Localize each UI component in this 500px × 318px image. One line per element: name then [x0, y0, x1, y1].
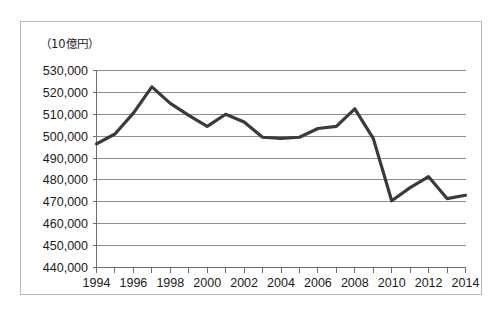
x-axis-tick-label: 1998 [156, 276, 184, 290]
x-axis-tick-labels: 1994199619982000200220042006200820102012… [83, 276, 480, 290]
x-axis-tick-label: 2012 [415, 276, 443, 290]
y-axis-tick-label: 480,000 [43, 173, 88, 187]
y-axis-tick-label: 510,000 [43, 108, 88, 122]
x-axis-tick-label: 2014 [452, 276, 480, 290]
line-chart: （10億円） 530,000520,000510,000500,000490,0… [0, 0, 500, 318]
y-axis-tick-label: 450,000 [43, 239, 88, 253]
y-axis-tick-label: 470,000 [43, 195, 88, 209]
x-axis-tick-label: 1994 [83, 276, 111, 290]
y-axis-tick-label: 500,000 [43, 130, 88, 144]
x-axis-tick-label: 2008 [341, 276, 369, 290]
y-axis-tick-labels: 530,000520,000510,000500,000490,000480,0… [43, 64, 88, 275]
x-axis-tick-label: 2010 [378, 276, 406, 290]
y-axis-tick-label: 520,000 [43, 86, 88, 100]
gridlines [93, 71, 466, 268]
data-series-line [97, 87, 466, 201]
x-axis-tick-marks [97, 268, 466, 273]
y-axis-tick-label: 530,000 [43, 64, 88, 78]
unit-label: （10億円） [40, 37, 99, 51]
x-axis-tick-label: 2004 [267, 276, 295, 290]
y-axis-tick-label: 460,000 [43, 217, 88, 231]
x-axis-tick-label: 2006 [304, 276, 332, 290]
x-axis-tick-label: 2000 [193, 276, 221, 290]
y-axis-tick-label: 440,000 [43, 261, 88, 275]
chart-canvas: （10億円） 530,000520,000510,000500,000490,0… [0, 0, 500, 318]
y-axis-tick-label: 490,000 [43, 152, 88, 166]
x-axis-tick-label: 1996 [119, 276, 147, 290]
x-axis-tick-label: 2002 [230, 276, 258, 290]
